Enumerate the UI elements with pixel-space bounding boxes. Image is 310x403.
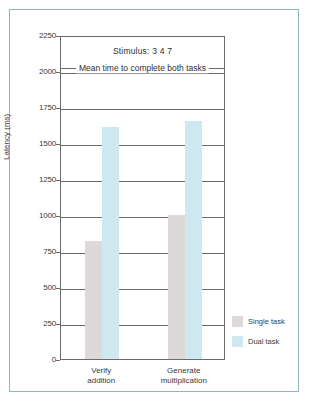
legend-label: Single task: [248, 317, 285, 326]
bar-group: [85, 37, 119, 359]
bar-dual-task: [102, 127, 119, 359]
y-axis-tick-mark: [56, 360, 60, 361]
y-axis-tick-label: 250: [14, 320, 56, 328]
legend-swatch: [232, 316, 243, 327]
y-axis-tick-label: 750: [14, 248, 56, 256]
legend-label: Dual task: [248, 337, 279, 346]
y-axis-tick-label: 2250: [14, 32, 56, 40]
y-axis-tick-label: 500: [14, 284, 56, 292]
legend-item: Single task: [232, 316, 285, 327]
category-label-line: Generate: [139, 366, 229, 376]
title-rule-left: [61, 68, 76, 69]
y-axis-tick-label: 1750: [14, 104, 56, 112]
bar-dual-task: [185, 121, 202, 359]
legend: Single taskDual task: [232, 316, 285, 356]
x-axis-category-label: Generatemultiplication: [139, 366, 229, 386]
title-rule-right: [209, 68, 224, 69]
legend-swatch: [232, 336, 243, 347]
legend-item: Dual task: [232, 336, 285, 347]
figure-frame: Latency (ms) 225020001750150012501000750…: [9, 9, 299, 392]
bar-group: [168, 37, 202, 359]
bar-single-task: [168, 215, 185, 359]
y-axis-tick-label: 1250: [14, 176, 56, 184]
plot-area: Stimulus: 3 4 7 Mean time to complete bo…: [60, 36, 225, 360]
y-axis-title: Latency (ms): [2, 40, 11, 160]
category-label-line: Verify: [56, 366, 146, 376]
category-label-line: addition: [56, 376, 146, 386]
y-axis-tick-label: 0: [14, 356, 56, 364]
x-axis-category-label: Verifyaddition: [56, 366, 146, 386]
category-label-line: multiplication: [139, 376, 229, 386]
y-axis-tick-label: 1500: [14, 140, 56, 148]
y-axis-tick-label: 2000: [14, 68, 56, 76]
bar-single-task: [85, 241, 102, 359]
y-axis-tick-label: 1000: [14, 212, 56, 220]
